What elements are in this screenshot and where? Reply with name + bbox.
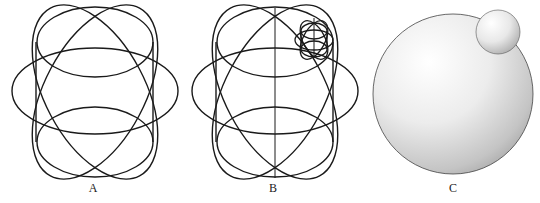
- shaded-sphere-c: [360, 0, 540, 203]
- panel-label-c: C: [443, 181, 463, 196]
- panel-label-b: B: [263, 181, 283, 196]
- panel-b: B: [180, 0, 360, 203]
- panel-label-a: A: [83, 181, 103, 196]
- panel-a: A: [0, 0, 190, 203]
- wireframe-sphere-b: [180, 0, 360, 203]
- wireframe-sphere-a: [0, 0, 190, 203]
- panel-c: C: [360, 0, 540, 203]
